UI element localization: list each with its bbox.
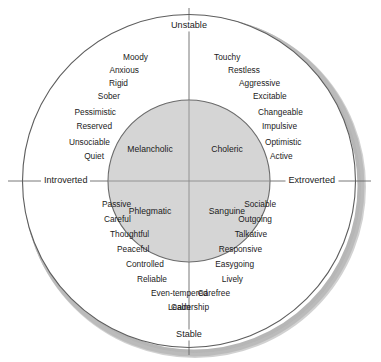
trait-label-sanguine-5: Lively: [222, 275, 243, 283]
trait-label-phlegmatic-2: Thoughtful: [110, 230, 149, 238]
trait-label-sanguine-3: Responsive: [219, 245, 262, 253]
trait-label-melancholic-5: Reserved: [76, 122, 112, 130]
trait-label-sanguine-2: Talkative: [235, 230, 267, 238]
trait-label-phlegmatic-3: Peaceful: [117, 245, 149, 253]
trait-label-phlegmatic-5: Reliable: [137, 275, 167, 283]
trait-label-melancholic-6: Unsociable: [69, 138, 110, 146]
axis-label-extroverted: Extroverted: [286, 175, 339, 186]
trait-label-choleric-5: Impulsive: [262, 122, 297, 130]
temperament-label-melancholic: Melancholic: [127, 145, 172, 154]
trait-label-sanguine-7: Leadership: [168, 303, 209, 311]
trait-label-choleric-6: Optimistic: [265, 138, 301, 146]
axis-label-introverted: Introverted: [41, 175, 90, 186]
eysenck-personality-circumplex-diagram: Unstable Stable Introverted Extroverted …: [0, 0, 381, 362]
trait-label-sanguine-0: Sociable: [244, 200, 276, 208]
trait-label-choleric-0: Touchy: [214, 53, 240, 61]
temperament-label-choleric: Choleric: [211, 145, 243, 154]
trait-label-sanguine-1: Outgoing: [238, 215, 272, 223]
trait-label-phlegmatic-1: Careful: [104, 215, 131, 223]
temperament-label-phlegmatic: Phlegmatic: [129, 207, 172, 216]
trait-label-sanguine-4: Easygoing: [215, 260, 254, 268]
axis-label-stable: Stable: [173, 329, 205, 340]
trait-label-choleric-4: Changeable: [258, 108, 303, 116]
trait-label-melancholic-1: Anxious: [109, 66, 139, 74]
trait-label-phlegmatic-4: Controlled: [126, 260, 164, 268]
trait-label-choleric-1: Restless: [228, 66, 260, 74]
axis-label-unstable: Unstable: [168, 20, 210, 31]
trait-label-melancholic-4: Pessimistic: [75, 108, 117, 116]
trait-label-phlegmatic-0: Passive: [102, 200, 131, 208]
trait-label-choleric-2: Aggressive: [239, 79, 280, 87]
trait-label-choleric-3: Excitable: [253, 92, 287, 100]
trait-label-melancholic-0: Moody: [123, 53, 148, 61]
trait-label-melancholic-2: Rigid: [109, 79, 128, 87]
trait-label-melancholic-3: Sober: [98, 92, 120, 100]
trait-label-sanguine-6: Carefree: [198, 289, 230, 297]
trait-label-choleric-7: Active: [270, 152, 293, 160]
trait-label-melancholic-7: Quiet: [84, 152, 104, 160]
